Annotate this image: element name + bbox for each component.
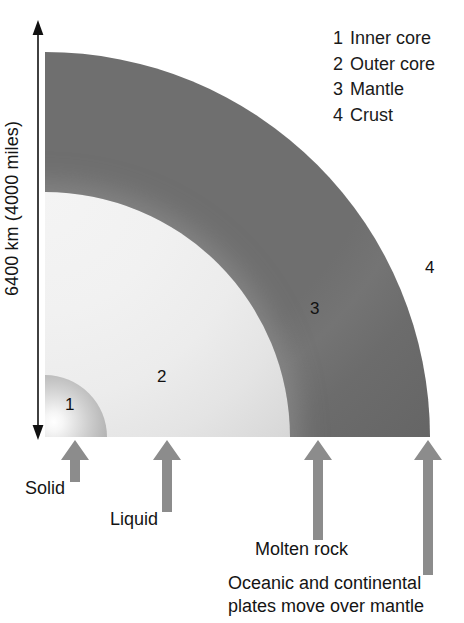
legend-item-inner-core: 1 Inner core [333,26,435,52]
legend-label-outer-core: Outer core [350,52,435,78]
callout-liquid: Liquid [110,508,158,531]
up-arrow-icon [413,440,443,575]
legend-item-outer-core: 2 Outer core [333,52,435,78]
up-arrow-icon [60,440,90,482]
legend: 1 Inner core 2 Outer core 3 Mantle 4 Cru… [333,26,435,128]
legend-label-inner-core: Inner core [350,26,431,52]
up-arrow-icon [152,440,182,512]
legend-item-crust: 4 Crust [333,103,435,129]
callout-molten-rock: Molten rock [255,538,348,561]
legend-number-3: 3 [333,77,343,103]
arrow-liquid [152,440,182,516]
marker-inner-core: 1 [65,396,74,413]
callout-solid: Solid [25,477,65,500]
up-arrow-icon [303,440,333,540]
legend-number-4: 4 [333,103,343,129]
legend-label-crust: Crust [350,103,393,129]
marker-outer-core: 2 [157,368,166,385]
arrow-molten-rock [303,440,333,544]
marker-mantle: 3 [310,300,319,317]
marker-crust: 4 [425,259,434,276]
legend-number-1: 1 [333,26,343,52]
double-headed-arrow-icon [31,20,45,440]
legend-item-mantle: 3 Mantle [333,77,435,103]
scale-axis [31,20,45,440]
diagram-canvas: 1 2 3 4 1 Inner core 2 Outer core 3 Mant… [0,0,464,623]
callout-plates: Oceanic and continental plates move over… [228,572,464,618]
legend-number-2: 2 [333,52,343,78]
scale-label: 6400 km (4000 miles) [2,7,23,411]
arrow-plates [413,440,443,579]
legend-label-mantle: Mantle [350,77,404,103]
